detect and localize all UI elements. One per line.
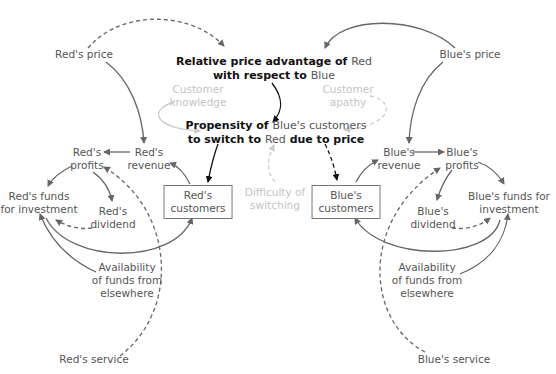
link-red-profits-to-dividend [93, 172, 112, 201]
red-highlight: Red [351, 55, 372, 68]
link-red-price-to-revenue [106, 62, 144, 143]
node-relative-price-advantage: Relative price advantage of Red with res… [176, 55, 372, 83]
link-red-dividend-to-funds [56, 220, 92, 229]
node-red-service: Red's service [59, 353, 128, 366]
link-difficulty-to-propensity [268, 145, 275, 182]
link-red-customers-to-revenue [170, 163, 190, 184]
link-propensity-to-blue-customers [325, 144, 337, 180]
node-blue-funds: Blue's funds for investment [468, 190, 550, 216]
link-propensity-to-red-customers [208, 144, 218, 182]
node-blue-price: Blue's price [439, 48, 500, 61]
link-blue-profits-to-dividend [437, 170, 452, 200]
blue-highlight: Blue [311, 69, 335, 82]
node-red-price: Red's price [55, 48, 113, 61]
node-difficulty-of-switching: Difficulty of switching [245, 186, 305, 212]
link-blue-service-to-profits [380, 168, 440, 352]
node-red-availability: Availability of funds from elsewhere [92, 261, 162, 300]
link-blue-dividend-to-funds [452, 218, 490, 229]
node-blue-customers: Blue's customers [312, 185, 381, 219]
node-customer-knowledge: Customer knowledge [170, 83, 227, 109]
node-blue-dividend: Blue's dividend [410, 205, 455, 231]
node-customer-apathy: Customer apathy [322, 83, 373, 109]
link-red-price-to-advantage [88, 19, 224, 48]
node-red-customers: Red's customers [164, 185, 233, 219]
link-blue-availability-to-funds [460, 214, 508, 274]
node-blue-revenue: Blue's revenue [378, 146, 421, 172]
node-red-profits: Red's profits [70, 146, 103, 172]
link-blue-customers-to-revenue [356, 160, 378, 182]
node-red-dividend: Red's dividend [90, 205, 135, 231]
node-propensity-to-switch: Propensity of Blue's customers to switch… [185, 119, 366, 147]
link-blue-price-to-advantage [325, 23, 455, 48]
node-blue-availability: Availability of funds from elsewhere [392, 261, 462, 300]
node-red-funds: Red's funds for investment [0, 190, 77, 216]
node-blue-service: Blue's service [418, 353, 491, 366]
node-blue-profits: Blue's profits [445, 146, 478, 172]
link-blue-profits-to-funds [478, 162, 504, 184]
link-blue-price-to-revenue [409, 62, 443, 143]
node-red-revenue: Red's revenue [128, 146, 171, 172]
link-advantage-to-propensity [272, 83, 281, 122]
link-red-profits-to-funds [48, 166, 72, 186]
